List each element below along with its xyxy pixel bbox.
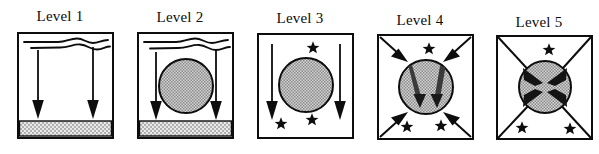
panel-level-5: Level 5 (479, 0, 599, 154)
gray-circle (159, 59, 213, 113)
panel-art-level-4 (360, 0, 480, 154)
panel-art-level-3 (240, 0, 360, 154)
sediment-bed (140, 121, 232, 136)
level-sequence-figure: Level 1 (0, 0, 599, 154)
panel-art-level-1 (0, 0, 120, 154)
gray-circle (519, 61, 571, 113)
sediment-bed (20, 121, 112, 136)
panel-art-level-5 (479, 0, 599, 154)
gray-circle (279, 58, 333, 112)
panel-level-4: Level 4 (360, 0, 480, 154)
panel-level-2: Level 2 (120, 0, 240, 154)
panel-level-3: Level 3 (240, 0, 360, 154)
panel-level-1: Level 1 (0, 0, 120, 154)
panel-art-level-2 (120, 0, 240, 154)
